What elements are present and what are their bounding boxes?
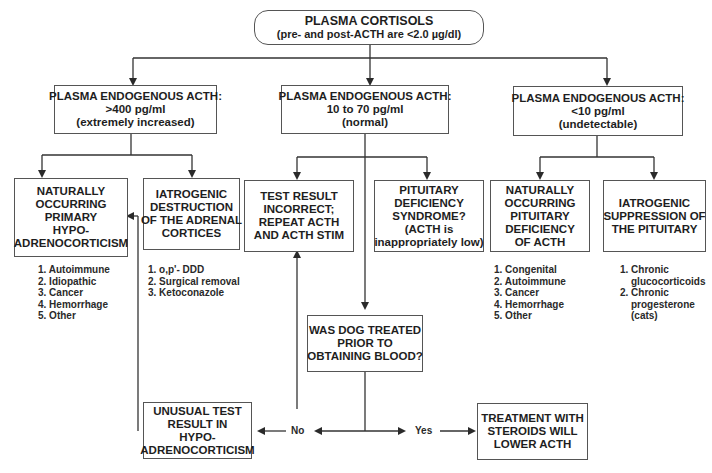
causes-iatrogenic-adrenal: 1. o,p'- DDD 2. Surgical removal 3. Keto… [148, 264, 240, 299]
box-line: UNUSUAL TEST [153, 405, 242, 418]
box-line: ADRENOCORTICISM [140, 444, 254, 457]
branch-value: 10 to 70 pg/ml [327, 103, 404, 116]
box-line: CORTICES [162, 227, 221, 240]
box-line: NATURALLY [37, 185, 105, 198]
root-plasma-cortisols: PLASMA CORTISOLS (pre- and post-ACTH are… [254, 10, 484, 45]
cause-item: 5. Other [38, 310, 110, 322]
causes-iatrogenic-pituitary: 1. Chronic glucocorticoids 2. Chronic pr… [620, 264, 705, 322]
box-line: IATROGENIC [156, 188, 227, 201]
box-line: PRIMARY [45, 211, 98, 224]
cause-item: 3. Cancer [38, 287, 110, 299]
outcome-natural-pituitary-deficiency: NATURALLY OCCURRING PITUITARY DEFICIENCY… [490, 180, 590, 252]
box-line: WAS DOG TREATED [309, 324, 421, 337]
box-line: AND ACTH STIM [254, 229, 344, 242]
cause-item: 1. Chronic glucocorticoids [620, 264, 705, 287]
cause-item: 3. Ketoconazole [148, 287, 240, 299]
cause-item: 1. o,p'- DDD [148, 264, 240, 276]
box-line: OCCURRING [505, 197, 576, 210]
cause-item: 1. Autoimmune [38, 264, 110, 276]
no-label: No [291, 425, 304, 436]
box-line: STEROIDS WILL [487, 425, 577, 438]
branch-heading: PLASMA ENDOGENOUS ACTH: [512, 92, 685, 105]
cause-item: 2. Idiopathic [38, 276, 110, 288]
box-line: (ACTH is [405, 223, 454, 236]
box-line: HYPO- [53, 224, 89, 237]
box-line: OF THE ADRENAL [141, 214, 242, 227]
box-line: SUPPRESSION OF [603, 210, 705, 223]
cause-cont: glucocorticoids [620, 276, 705, 288]
box-line: PITUITARY [510, 210, 569, 223]
causes-primary-hypoadrenocorticism: 1. Autoimmune 2. Idiopathic 3. Cancer 4.… [38, 264, 110, 322]
box-line: NATURALLY [506, 184, 574, 197]
cause-item: 3. Cancer [494, 287, 566, 299]
box-line: TEST RESULT [260, 190, 338, 203]
yes-label: Yes [415, 425, 432, 436]
root-title: PLASMA CORTISOLS [305, 14, 434, 28]
outcome-pituitary-deficiency-syndrome: PITUITARY DEFICIENCY SYNDROME? (ACTH is … [374, 180, 484, 252]
box-line: LOWER ACTH [494, 438, 572, 451]
cause-num: 1. Chronic [620, 264, 669, 275]
result-unusual-test: UNUSUAL TEST RESULT IN HYPO- ADRENOCORTI… [143, 402, 252, 459]
cause-item: 1. Congenital [494, 264, 566, 276]
branch-heading: PLASMA ENDOGENOUS ACTH: [279, 90, 452, 103]
box-line: PRIOR TO [337, 337, 392, 350]
branch-acth-low: PLASMA ENDOGENOUS ACTH: <10 pg/ml (undet… [513, 86, 683, 136]
box-line: HYPO- [179, 431, 215, 444]
cause-item: 2. Chronic progesterone (cats) [620, 287, 705, 322]
box-line: SYNDROME? [392, 210, 465, 223]
box-line: DEFICIENCY [394, 197, 464, 210]
box-line: DEFICIENCY [505, 223, 575, 236]
box-line: INCORRECT; [264, 203, 335, 216]
box-line: ADRENOCORTICISM [14, 237, 128, 250]
question-dog-treated: WAS DOG TREATED PRIOR TO OBTAINING BLOOD… [307, 315, 423, 372]
box-line: DESTRUCTION [150, 201, 233, 214]
box-line: PITUITARY [399, 184, 458, 197]
cause-num: 2. Chronic [620, 287, 669, 298]
cause-item: 5. Other [494, 310, 566, 322]
box-line: inappropriately low) [374, 236, 483, 249]
cause-item: 2. Autoimmune [494, 276, 566, 288]
outcome-iatrogenic-pituitary: IATROGENIC SUPPRESSION OF THE PITUITARY [603, 180, 706, 252]
branch-acth-high: PLASMA ENDOGENOUS ACTH: >400 pg/ml (extr… [54, 85, 217, 134]
outcome-primary-hypoadrenocorticism: NATURALLY OCCURRING PRIMARY HYPO- ADRENO… [14, 178, 128, 257]
outcome-test-incorrect: TEST RESULT INCORRECT; REPEAT ACTH AND A… [244, 180, 354, 252]
branch-qualifier: (extremely increased) [76, 116, 194, 129]
box-line: OCCURRING [36, 198, 107, 211]
result-steroid-treatment: TREATMENT WITH STEROIDS WILL LOWER ACTH [477, 403, 588, 460]
box-line: RESULT IN [168, 418, 228, 431]
cause-cont: (cats) [620, 310, 705, 322]
box-line: OBTAINING BLOOD? [307, 350, 422, 363]
branch-heading: PLASMA ENDOGENOUS ACTH: [49, 90, 222, 103]
cause-item: 2. Surgical removal [148, 276, 240, 288]
branch-acth-normal: PLASMA ENDOGENOUS ACTH: 10 to 70 pg/ml (… [281, 85, 449, 134]
box-line: THE PITUITARY [612, 223, 698, 236]
branch-value: >400 pg/ml [106, 103, 166, 116]
cause-item: 4. Hemorrhage [38, 299, 110, 311]
outcome-iatrogenic-adrenal: IATROGENIC DESTRUCTION OF THE ADRENAL CO… [143, 178, 240, 250]
branch-qualifier: (normal) [342, 116, 388, 129]
box-line: IATROGENIC [619, 197, 690, 210]
causes-natural-pituitary-deficiency: 1. Congenital 2. Autoimmune 3. Cancer 4.… [494, 264, 566, 322]
box-line: OF ACTH [515, 236, 566, 249]
branch-qualifier: (undetectable) [559, 118, 638, 131]
branch-value: <10 pg/ml [571, 105, 624, 118]
cause-cont: progesterone [620, 299, 705, 311]
box-line: REPEAT ACTH [259, 216, 340, 229]
box-line: TREATMENT WITH [481, 412, 584, 425]
root-subtitle: (pre- and post-ACTH are <2.0 µg/dl) [277, 28, 462, 41]
cause-item: 4. Hemorrhage [494, 299, 566, 311]
